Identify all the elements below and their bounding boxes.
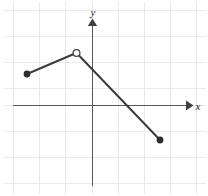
graph-figure: y x	[0, 0, 208, 196]
x-axis-label: x	[195, 100, 201, 112]
closed-endpoint-right-marker	[157, 137, 164, 144]
y-axis-label: y	[90, 6, 96, 18]
figure-background	[0, 0, 208, 196]
closed-endpoint-left-marker	[24, 71, 31, 78]
open-endpoint-marker	[73, 50, 80, 57]
coordinate-plane-svg: y x	[0, 0, 208, 196]
